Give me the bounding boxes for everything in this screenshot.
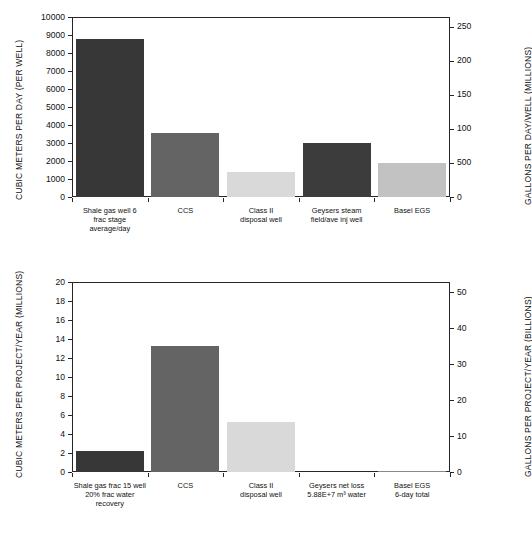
- top-y-tickmark: [68, 161, 72, 162]
- bottom-y-tick-label: 14: [24, 335, 65, 344]
- top-x-category-line: field/ave inj well: [294, 215, 380, 224]
- bottom-y-tick-label: 18: [24, 297, 65, 306]
- bottom-y2-tickmark: [450, 328, 454, 329]
- top-y-tick-label: 4000: [24, 121, 65, 130]
- top-y-tickmark: [68, 179, 72, 180]
- chart-panel-top: CUBIC METERS PER DAY (PER WELL) GALLONS …: [0, 0, 532, 262]
- top-bar: [151, 133, 219, 197]
- top-y2-tickmark: [450, 129, 454, 130]
- top-y-tick-label: 9000: [24, 31, 65, 40]
- top-x-category-line: Basel EGS: [369, 206, 455, 215]
- bottom-y-tickmark: [68, 282, 72, 283]
- bottom-y2-tick-label: 10: [457, 432, 497, 441]
- bottom-y2-tick-label: 30: [457, 360, 497, 369]
- top-y2-tickmark: [450, 27, 454, 28]
- top-x-category-line: frac stage: [67, 215, 153, 224]
- bottom-y2-tickmark: [450, 292, 454, 293]
- bottom-y2-tickmark: [450, 436, 454, 437]
- top-y-tick-label: 5000: [24, 103, 65, 112]
- top-y-tickmark: [68, 125, 72, 126]
- bottom-x-tickmark: [72, 473, 73, 477]
- top-y-tickmark: [68, 53, 72, 54]
- top-y2-tick-label: 150: [457, 90, 497, 99]
- top-x-tickmark: [374, 198, 375, 202]
- figure-canvas: CUBIC METERS PER DAY (PER WELL) GALLONS …: [0, 0, 532, 541]
- top-y-tickmark: [68, 89, 72, 90]
- top-x-category-line: Class II: [218, 206, 304, 215]
- bottom-x-tickmark: [450, 473, 451, 477]
- top-y-tick-label: 7000: [24, 67, 65, 76]
- top-x-tickmark: [299, 198, 300, 202]
- bottom-y-tick-label: 0: [24, 468, 65, 477]
- top-y2-tickmark: [450, 163, 454, 164]
- bottom-y-tick-label: 12: [24, 354, 65, 363]
- bottom-y-tick-label: 6: [24, 411, 65, 420]
- top-x-category-line: Geysers steam: [294, 206, 380, 215]
- bottom-y2-tickmark: [450, 364, 454, 365]
- top-bar: [378, 163, 446, 197]
- bottom-y-tick-label: 4: [24, 430, 65, 439]
- top-y2-tick-label: 500: [457, 158, 497, 167]
- top-y-tick-label: 0: [24, 193, 65, 202]
- bottom-y2-tick-label: 50: [457, 288, 497, 297]
- bottom-y-tickmark: [68, 415, 72, 416]
- top-x-tickmark: [223, 198, 224, 202]
- top-bar: [76, 39, 144, 197]
- top-bar: [227, 172, 295, 197]
- top-y-tick-label: 3000: [24, 139, 65, 148]
- bottom-x-category-line: recovery: [64, 499, 156, 508]
- top-y2-tick-label: 250: [457, 22, 497, 31]
- bottom-y-tickmark: [68, 301, 72, 302]
- top-x-category-line: CCS: [142, 206, 228, 215]
- bottom-y-tickmark: [68, 320, 72, 321]
- top-x-tickmark: [148, 198, 149, 202]
- bottom-x-category-line: 6-day total: [366, 490, 458, 499]
- bottom-y-tick-label: 20: [24, 278, 65, 287]
- top-y-tick-label: 8000: [24, 49, 65, 58]
- bottom-y2-tickmark: [450, 400, 454, 401]
- bottom-x-category-label: Basel EGS6-day total: [366, 481, 458, 499]
- top-y2-tick-label: 0: [457, 193, 497, 202]
- top-x-category-label: Geysers steamfield/ave inj well: [294, 206, 380, 224]
- bottom-y2-tick-label: 0: [457, 468, 497, 477]
- bottom-x-category-line: 20% frac water: [64, 490, 156, 499]
- bottom-bar: [76, 451, 144, 472]
- top-y-tick-label: 6000: [24, 85, 65, 94]
- bottom-bar: [151, 346, 219, 472]
- top-x-category-label: CCS: [142, 206, 228, 215]
- bottom-y-tick-label: 8: [24, 392, 65, 401]
- top-x-category-label: Shale gas well 6frac stageaverage/day: [67, 206, 153, 234]
- top-x-category-line: disposal well: [218, 215, 304, 224]
- top-bar: [303, 143, 371, 197]
- bottom-x-tickmark: [299, 473, 300, 477]
- top-y2-tickmark: [450, 61, 454, 62]
- bottom-y-tickmark: [68, 396, 72, 397]
- top-y-tick-label: 1000: [24, 175, 65, 184]
- bottom-x-category-line: Basel EGS: [366, 481, 458, 490]
- top-y2-axis-title: GALLONS PER DAY/WELL (MILLIONS): [523, 47, 532, 205]
- top-y-tickmark: [68, 143, 72, 144]
- top-y-tickmark: [68, 35, 72, 36]
- bottom-y-tickmark: [68, 339, 72, 340]
- top-x-category-line: Shale gas well 6: [67, 206, 153, 215]
- bottom-y-tickmark: [68, 358, 72, 359]
- bottom-y2-tick-label: 40: [457, 324, 497, 333]
- bottom-x-tickmark: [148, 473, 149, 477]
- bottom-y-tick-label: 10: [24, 373, 65, 382]
- top-y-tickmark: [68, 107, 72, 108]
- top-x-tickmark: [450, 198, 451, 202]
- top-x-tickmark: [72, 198, 73, 202]
- bottom-y-tick-label: 16: [24, 316, 65, 325]
- top-y2-tick-label: 200: [457, 56, 497, 65]
- bottom-bar: [227, 422, 295, 472]
- top-y2-tickmark: [450, 95, 454, 96]
- top-x-category-line: average/day: [67, 224, 153, 233]
- bottom-x-tickmark: [374, 473, 375, 477]
- top-y-tick-label: 10000: [24, 13, 65, 22]
- top-y2-tick-label: 100: [457, 124, 497, 133]
- bottom-x-tickmark: [223, 473, 224, 477]
- bottom-y-axis-title: CUBIC METERS PER PROJECT/YEAR (MILLIONS): [14, 271, 24, 478]
- bottom-y-tickmark: [68, 377, 72, 378]
- chart-panel-bottom: CUBIC METERS PER PROJECT/YEAR (MILLIONS)…: [0, 262, 532, 541]
- bottom-y-tick-label: 2: [24, 449, 65, 458]
